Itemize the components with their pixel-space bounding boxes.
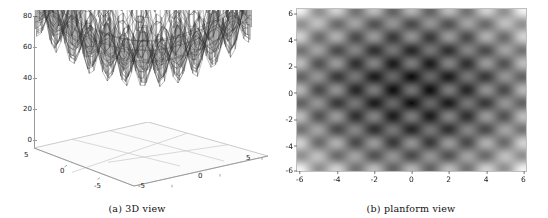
x-tick-5: 5 bbox=[246, 154, 250, 162]
plot-3d-axes: 80 60 40 20 0 bbox=[8, 4, 270, 186]
caption-panel-a: (a) 3D view bbox=[0, 203, 274, 214]
heatmap-plot: 6 4 2 0 -2 -4 -6 -6 -4 -2 0 2 4 6 bbox=[296, 8, 527, 172]
planform-y-tick-0: 0 bbox=[288, 88, 293, 97]
panel-3d-view: 80 60 40 20 0 bbox=[0, 0, 274, 218]
y-tick-0: 0 bbox=[60, 167, 64, 175]
planform-x-tick-0: 0 bbox=[409, 175, 414, 184]
planform-y-tick-minus-2: -2 bbox=[286, 115, 293, 124]
planform-x-tick-minus-4: -4 bbox=[333, 175, 340, 184]
planform-y-tick-6: 6 bbox=[288, 9, 293, 18]
planform-x-tick-minus-2: -2 bbox=[371, 175, 378, 184]
planform-y-tick-2: 2 bbox=[288, 62, 293, 71]
y-tick-minus-5: -5 bbox=[94, 182, 101, 190]
figure-container: 80 60 40 20 0 bbox=[0, 0, 548, 218]
x-tick-minus-5: -5 bbox=[138, 182, 145, 190]
planform-x-tick-4: 4 bbox=[484, 175, 489, 184]
heatmap-canvas-wrap bbox=[296, 8, 527, 172]
planform-x-tick-6: 6 bbox=[521, 175, 526, 184]
panel-planform-view: 6 4 2 0 -2 -4 -6 -6 -4 -2 0 2 4 6 (b) pl… bbox=[274, 0, 548, 218]
planform-x-tick-2: 2 bbox=[446, 175, 451, 184]
x-tick-0: 0 bbox=[198, 172, 202, 180]
planform-y-tick-minus-4: -4 bbox=[286, 141, 293, 150]
caption-panel-b: (b) planform view bbox=[274, 203, 548, 214]
surface-mesh bbox=[22, 10, 272, 142]
planform-y-tick-minus-6: -6 bbox=[286, 166, 293, 175]
planform-y-tick-4: 4 bbox=[288, 35, 293, 44]
planform-x-tick-minus-6: -6 bbox=[296, 175, 303, 184]
y-tick-5: 5 bbox=[24, 151, 28, 159]
